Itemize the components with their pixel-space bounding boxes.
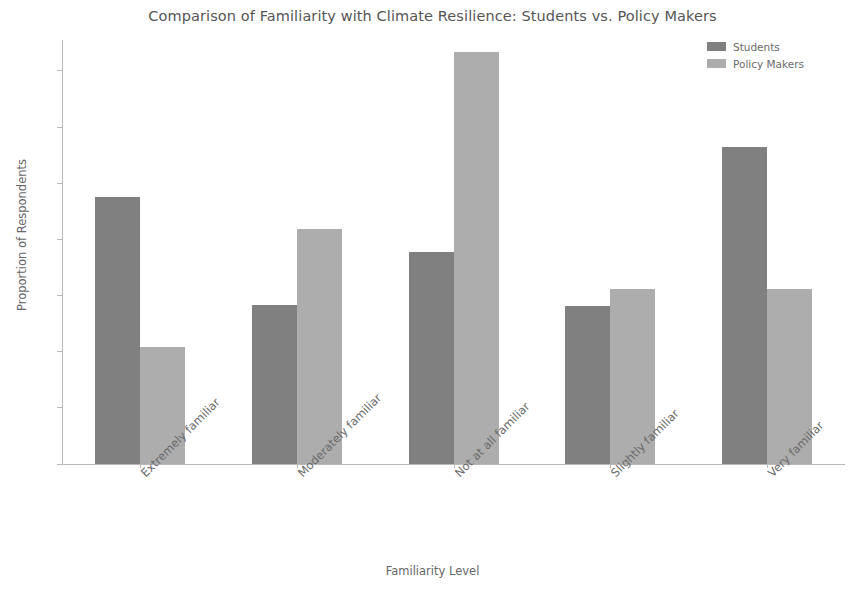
x-tick-label: Extremely familiar [138,470,148,480]
x-tick-label: Not at all familiar [452,470,462,480]
x-tick-label: Very familiar [765,470,775,480]
y-axis-label: Proportion of Respondents [15,120,29,350]
legend-label: Students [733,41,780,53]
chart-legend: StudentsPolicy Makers [707,38,847,72]
legend-swatch-students [707,42,726,51]
bar-students [722,147,767,464]
x-tick-label: Slightly familiar [608,470,618,480]
chart-figure: Comparison of Familiarity with Climate R… [0,0,865,591]
legend-label: Policy Makers [733,58,804,70]
legend-swatch-policy-makers [707,59,726,68]
chart-title: Comparison of Familiarity with Climate R… [0,8,865,24]
bar-students [95,197,140,464]
x-tick-label: Moderately familiar [295,470,305,480]
bar-students [252,305,297,464]
bar-students [409,252,454,464]
bar-students [565,306,610,464]
x-axis-label: Familiarity Level [0,564,865,578]
legend-item: Students [707,38,847,55]
legend-item: Policy Makers [707,55,847,72]
plot-area [62,40,845,464]
bar-policy-makers [454,52,499,464]
